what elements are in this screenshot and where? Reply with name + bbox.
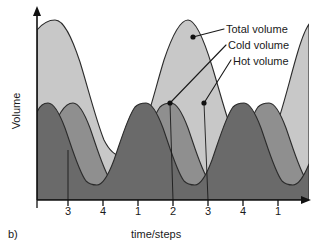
chart-canvas: [0, 0, 316, 247]
x-tick-label-6: 1: [271, 205, 285, 217]
x-tick-label-4: 3: [201, 205, 215, 217]
x-tick-label-3: 2: [166, 205, 180, 217]
x-tick-label-0: 3: [61, 205, 75, 217]
annotation-cold-volume: Cold volume: [228, 40, 289, 51]
dot-hot-volume: [201, 100, 206, 105]
y-axis-title: Volume: [10, 81, 22, 141]
annotation-hot-volume: Hot volume: [233, 56, 289, 67]
x-axis-title: time/steps: [131, 228, 181, 240]
x-tick-label-2: 1: [131, 205, 145, 217]
figure-caption: b): [8, 228, 18, 240]
annotation-total-volume: Total volume: [226, 24, 288, 35]
x-tick-label-5: 4: [236, 205, 250, 217]
y-axis-arrow: [33, 6, 41, 16]
figure-panel: 3 4 1 2 3 4 1 Total volume Cold volume H…: [0, 0, 316, 247]
x-tick-label-1: 4: [96, 205, 110, 217]
dot-total-volume: [190, 34, 195, 39]
dot-cold-volume: [167, 100, 172, 105]
